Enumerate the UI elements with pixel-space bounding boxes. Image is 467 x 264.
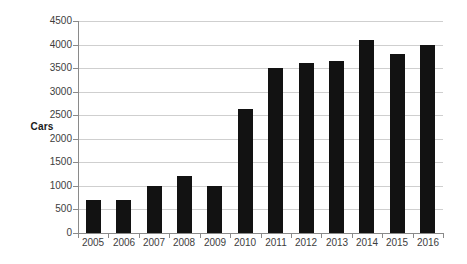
y-tick-label: 500 [24,204,72,214]
bar [147,186,162,233]
gridline [78,115,443,116]
y-tick-label: 3500 [24,63,72,73]
x-tick-label: 2016 [408,238,448,248]
gridline [78,209,443,210]
gridline [78,68,443,69]
y-tick-label: 3000 [24,87,72,97]
bar [177,176,192,233]
y-tick-label: 4500 [24,16,72,26]
gridline [78,21,443,22]
bar [238,109,253,233]
gridline [78,45,443,46]
y-axis-title: Cars [14,121,70,132]
bar [86,200,101,233]
gridline [78,162,443,163]
y-tick-label: 0 [24,228,72,238]
y-tick-label: 2500 [24,110,72,120]
bar [207,186,222,233]
y-tick-label: 1000 [24,181,72,191]
bar [268,68,283,233]
bar [359,40,374,233]
bar [329,61,344,233]
bar [116,200,131,233]
x-axis-line [78,233,444,234]
y-tick-label: 1500 [24,157,72,167]
bar [420,45,435,233]
y-axis-line [78,21,79,234]
plot-area [78,21,443,233]
gridline [78,186,443,187]
bar-chart: Cars 05001000150020002500300035004000450… [0,0,467,264]
bar [299,63,314,233]
y-tick-label: 2000 [24,134,72,144]
gridline [78,139,443,140]
bar [390,54,405,233]
gridline [78,92,443,93]
y-tick-label: 4000 [24,40,72,50]
x-tick-mark [443,234,444,238]
